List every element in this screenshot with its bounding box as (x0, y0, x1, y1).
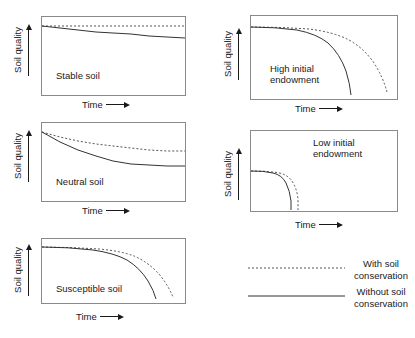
y-axis-susceptible-soil: Soil quality (12, 244, 32, 296)
curve-without-conservation (42, 132, 185, 166)
up-arrow-icon (25, 24, 32, 76)
panel-label-high-initial-endowment: High initial endowment (270, 63, 319, 85)
right-arrow-icon (319, 221, 343, 228)
curve-without-conservation (42, 26, 185, 38)
y-axis-neutral-soil: Soil quality (12, 130, 32, 182)
x-axis-susceptible-soil: Time (76, 311, 124, 322)
panel-label-low-initial-endowment: Low initial endowment (313, 137, 362, 159)
y-axis-stable-soil: Soil quality (12, 24, 32, 76)
x-axis-label: Time (82, 99, 103, 110)
panel-label-neutral-soil: Neutral soil (56, 176, 104, 187)
x-axis-low-initial-endowment: Time (295, 219, 343, 230)
y-axis-label: Soil quality (222, 151, 233, 197)
panel-label-stable-soil: Stable soil (56, 70, 100, 81)
right-arrow-icon (106, 101, 130, 108)
right-arrow-icon (100, 313, 124, 320)
plot-stable-soil (42, 17, 185, 95)
x-axis-label: Time (76, 311, 97, 322)
panel-stable-soil (41, 16, 186, 96)
panel-high-initial-endowment (250, 15, 398, 100)
soil-quality-figure: Soil quality Stable soil Time Soil quali… (0, 0, 415, 338)
legend-label-without-conservation: Without soil conservation (348, 286, 414, 309)
up-arrow-icon (25, 244, 32, 296)
y-axis-label: Soil quality (12, 247, 23, 293)
y-axis-label: Soil quality (12, 133, 23, 179)
right-arrow-icon (106, 207, 130, 214)
y-axis-label: Soil quality (12, 27, 23, 73)
panel-label-susceptible-soil: Susceptible soil (56, 283, 122, 294)
x-axis-label: Time (295, 103, 316, 114)
plot-high-initial-endowment (251, 16, 397, 99)
curve-with-conservation (42, 132, 185, 151)
curve-without-conservation (251, 171, 291, 210)
y-axis-low-initial-endowment: Soil quality (222, 148, 242, 200)
plot-neutral-soil (42, 123, 185, 201)
up-arrow-icon (235, 148, 242, 200)
x-axis-stable-soil: Time (82, 99, 130, 110)
legend-swatch-without-conservation (248, 291, 345, 301)
x-axis-neutral-soil: Time (82, 205, 130, 216)
y-axis-label: Soil quality (222, 31, 233, 77)
up-arrow-icon (235, 28, 242, 80)
x-axis-label: Time (82, 205, 103, 216)
panel-susceptible-soil (41, 238, 186, 304)
x-axis-high-initial-endowment: Time (295, 103, 343, 114)
y-axis-high-initial-endowment: Soil quality (222, 28, 242, 80)
legend-swatch-with-conservation (248, 263, 345, 273)
panel-neutral-soil (41, 122, 186, 202)
legend-label-with-conservation: With soil conservation (350, 258, 412, 281)
x-axis-label: Time (295, 219, 316, 230)
right-arrow-icon (319, 105, 343, 112)
up-arrow-icon (25, 130, 32, 182)
